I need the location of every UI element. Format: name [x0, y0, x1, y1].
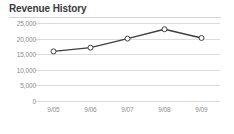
data-point-marker[interactable] — [51, 49, 56, 54]
plot-area: 05,00010,00015,00020,00025,000 9/059/069… — [0, 0, 234, 134]
revenue-history-chart-card: Revenue History 05,00010,00015,00020,000… — [0, 0, 234, 134]
line-series-group — [0, 0, 234, 134]
data-point-marker[interactable] — [162, 27, 167, 32]
data-point-marker[interactable] — [88, 45, 93, 50]
data-point-marker[interactable] — [125, 36, 130, 41]
data-point-marker[interactable] — [199, 35, 204, 40]
